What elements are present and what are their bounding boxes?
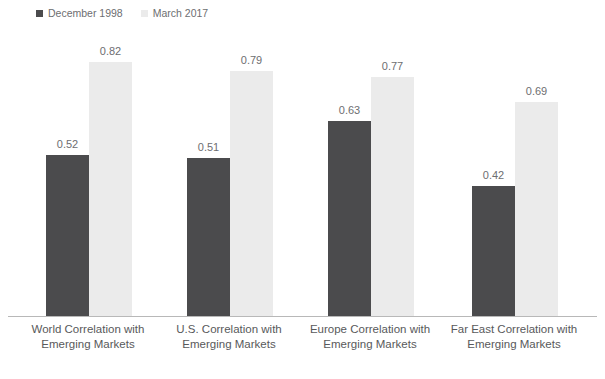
category-label-line-2: Emerging Markets — [8, 337, 168, 352]
category-label-line-2: Emerging Markets — [290, 337, 450, 352]
category-label-3: Europe Correlation withEmerging Markets — [290, 322, 450, 352]
plot-area: 0.520.510.630.420.820.790.770.69 — [0, 0, 605, 316]
category-label-line-1: U.S. Correlation with — [149, 322, 309, 337]
category-label-line-1: Far East Correlation with — [434, 322, 594, 337]
bar-march-2017-1[interactable] — [89, 62, 132, 316]
bar-march-2017-2[interactable] — [230, 71, 273, 316]
bar-value-label: 0.42 — [472, 170, 515, 181]
bar-value-label: 0.69 — [515, 86, 558, 97]
category-label-line-2: Emerging Markets — [149, 337, 309, 352]
bar-december-1998-3[interactable] — [328, 121, 371, 316]
category-label-line-2: Emerging Markets — [434, 337, 594, 352]
bar-march-2017-3[interactable] — [371, 77, 414, 316]
bar-value-label: 0.82 — [89, 46, 132, 57]
bar-december-1998-2[interactable] — [187, 158, 230, 316]
x-axis-category-labels: World Correlation withEmerging MarketsU.… — [0, 322, 605, 366]
bar-value-label: 0.52 — [46, 139, 89, 150]
bar-march-2017-4[interactable] — [515, 102, 558, 316]
bar-chart: December 1998March 2017 0.520.510.630.42… — [0, 0, 605, 379]
category-label-1: World Correlation withEmerging Markets — [8, 322, 168, 352]
category-label-line-1: Europe Correlation with — [290, 322, 450, 337]
category-label-4: Far East Correlation withEmerging Market… — [434, 322, 594, 352]
bar-value-label: 0.63 — [328, 105, 371, 116]
x-axis-line — [8, 316, 597, 317]
category-label-line-1: World Correlation with — [8, 322, 168, 337]
bar-december-1998-1[interactable] — [46, 155, 89, 316]
bar-value-label: 0.77 — [371, 61, 414, 72]
category-label-2: U.S. Correlation withEmerging Markets — [149, 322, 309, 352]
bar-december-1998-4[interactable] — [472, 186, 515, 316]
bar-value-label: 0.51 — [187, 142, 230, 153]
bar-value-label: 0.79 — [230, 55, 273, 66]
